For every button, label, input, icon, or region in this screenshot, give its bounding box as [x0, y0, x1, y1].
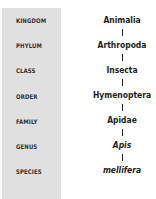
- connector-line: [122, 104, 123, 111]
- connector-line: [122, 154, 123, 161]
- rank-genus: GENUS: [16, 143, 37, 150]
- taxon-order: Hymenoptera: [86, 89, 156, 100]
- connector-line: [122, 29, 123, 36]
- rank-class: CLASS: [16, 67, 36, 74]
- taxon-family: Apidae: [86, 114, 156, 125]
- taxon-phylum: Arthropoda: [86, 39, 156, 50]
- rank-kingdom: KINGDOM: [16, 17, 46, 24]
- rank-family: FAMILY: [16, 118, 37, 125]
- rank-order: ORDER: [16, 93, 37, 100]
- taxon-kingdom: Animalia: [86, 14, 156, 25]
- rank-species: SPECIES: [16, 168, 42, 175]
- connector-line: [122, 129, 123, 136]
- connector-line: [122, 54, 123, 61]
- taxon-species: mellifera: [86, 164, 156, 175]
- taxon-class: Insecta: [86, 64, 156, 75]
- connector-line: [122, 79, 123, 86]
- taxon-genus: Apis: [86, 139, 156, 150]
- rank-phylum: PHYLUM: [16, 42, 42, 49]
